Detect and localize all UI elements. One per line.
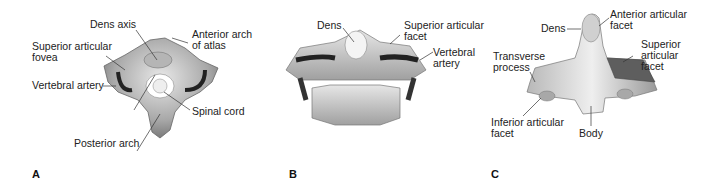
panel-b: Dens Superior articular facet Vertebral …	[240, 0, 475, 194]
panel-letter-c: C	[491, 168, 499, 180]
label-spinal-cord: Spinal cord	[192, 106, 245, 117]
label-superior-fovea: Superior articular fovea	[32, 41, 112, 63]
label-vertebral-artery: Vertebral artery	[433, 47, 475, 69]
label-posterior-arch: Posterior arch	[74, 138, 139, 149]
label-superior-facet: Superior articular facet	[641, 39, 681, 72]
label-transverse-process: Transverse process	[493, 51, 545, 73]
label-superior-facet: Superior articular facet	[404, 20, 484, 42]
label-anterior-facet: Anterior articular facet	[610, 9, 687, 31]
label-dens: Dens	[317, 20, 342, 31]
panel-a: Dens axis Anterior arch of atlas Superio…	[0, 0, 240, 194]
label-inferior-facet: Inferior articular facet	[491, 117, 564, 139]
panel-letter-a: A	[32, 168, 40, 180]
label-body: Body	[579, 128, 603, 139]
label-vertebral-artery: Vertebral artery	[32, 80, 104, 91]
label-dens-axis: Dens axis	[90, 19, 136, 30]
panel-letter-b: B	[289, 168, 297, 180]
panel-c: Dens Anterior articular facet Transverse…	[475, 0, 715, 194]
label-dens: Dens	[541, 23, 566, 34]
